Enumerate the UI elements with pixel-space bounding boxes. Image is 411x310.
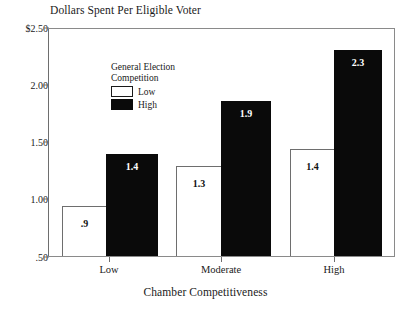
y-tick-label-0-50: .50 — [4, 252, 48, 263]
bar-value-label: 1.4 — [291, 161, 334, 172]
bar-value-label: 1.9 — [222, 108, 270, 119]
bar-low-high[interactable]: 1.4 — [106, 154, 158, 256]
y-tick-label-1-00: 1.00 — [4, 194, 48, 205]
bar-moderate-high[interactable]: 1.9 — [221, 101, 271, 256]
legend-swatch-high-icon — [111, 99, 133, 110]
bar-high-high[interactable]: 2.3 — [334, 50, 382, 256]
chart-title: Dollars Spent Per Eligible Voter — [50, 4, 201, 16]
y-axis-line — [48, 29, 49, 256]
y-tick-label-2-50: $2.50 — [4, 23, 48, 34]
legend: General Election Competition Low High — [111, 62, 175, 110]
legend-item-low[interactable]: Low — [111, 86, 175, 97]
legend-label-high: High — [138, 100, 157, 110]
bar-high-low[interactable]: 1.4 — [290, 149, 335, 256]
x-cat-label-low: Low — [99, 264, 118, 275]
bar-value-label: .9 — [63, 218, 106, 229]
bar-low-low[interactable]: .9 — [62, 206, 107, 256]
legend-label-low: Low — [138, 87, 155, 97]
bar-value-label: 1.4 — [107, 161, 157, 172]
legend-swatch-low-icon — [111, 86, 133, 97]
y-tick-label-1-50: 1.50 — [4, 137, 48, 148]
legend-title-line-2: Competition — [111, 73, 175, 84]
x-tick-mark-moderate — [221, 257, 222, 262]
plot-area: .9 1.4 1.3 1.9 1.4 2.3 General Election … — [48, 28, 395, 257]
legend-item-high[interactable]: High — [111, 99, 175, 110]
y-tick-label-2-00: 2.00 — [4, 80, 48, 91]
x-tick-mark-high — [334, 257, 335, 262]
bar-value-label: 2.3 — [335, 57, 381, 68]
x-axis-title: Chamber Competitiveness — [0, 286, 411, 298]
x-cat-label-moderate: Moderate — [201, 264, 241, 275]
bar-value-label: 1.3 — [177, 178, 221, 189]
x-cat-label-high: High — [324, 264, 345, 275]
chart-figure: Dollars Spent Per Eligible Voter $2.50 2… — [0, 0, 411, 310]
legend-title-line-1: General Election — [111, 62, 175, 73]
x-tick-mark-low — [109, 257, 110, 262]
y-axis: $2.50 2.00 1.50 1.00 .50 — [0, 0, 48, 310]
bar-moderate-low[interactable]: 1.3 — [176, 166, 222, 256]
